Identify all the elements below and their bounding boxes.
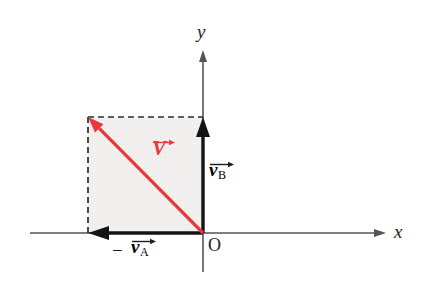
vector-arrow-icon [152,138,176,145]
x-axis-label: x [394,222,402,241]
y-axis-label: y [197,22,205,41]
y-axis-arrowhead [199,50,207,62]
diagram-canvas [0,0,422,300]
vector-va-minus-sign: − [112,240,123,262]
origin-label: O [208,236,221,254]
vector-diagram-figure: y x O vB − vA V [0,0,422,300]
vector-arrow-icon [209,160,235,167]
vector-vb-subscript: B [217,168,226,182]
vector-v-label: V [152,138,166,159]
vector-vb-label: vB [209,160,226,181]
vector-arrow-icon [131,237,157,244]
vector-va-subscript: A [139,245,148,259]
x-axis-arrowhead [374,229,386,237]
vector-va-label: vA [131,237,149,258]
